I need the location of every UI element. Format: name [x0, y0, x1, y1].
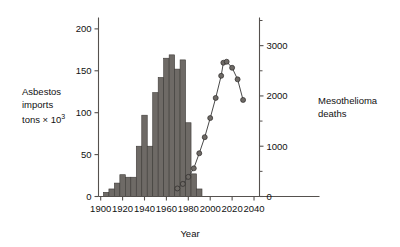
- line-series-marker: [219, 73, 224, 78]
- left-axis-tick-label: 150: [76, 65, 92, 76]
- left-axis-tick-label: 200: [76, 23, 92, 34]
- bar: [191, 174, 196, 197]
- chart-figure: 0501001502000100020003000190019201940196…: [0, 0, 400, 247]
- x-axis-tick-label: 2040: [243, 203, 264, 214]
- x-axis-tick-label: 2020: [222, 203, 243, 214]
- left-axis-tick-label: 0: [86, 191, 91, 202]
- line-series-marker: [175, 186, 180, 191]
- bar: [164, 58, 169, 196]
- line-series-marker: [186, 174, 191, 179]
- x-axis-label: Year: [150, 228, 230, 239]
- bar: [109, 189, 114, 197]
- x-axis-tick-label: 1900: [90, 203, 111, 214]
- bar: [142, 115, 147, 196]
- x-axis-tick-label: 1980: [178, 203, 199, 214]
- left-axis-label-line3: tons × 103: [22, 111, 100, 127]
- left-axis-tick-label: 50: [81, 149, 92, 160]
- line-series-marker: [224, 59, 229, 64]
- left-axis-label-line1: Asbestos: [22, 86, 100, 99]
- bar: [158, 77, 163, 196]
- bar: [103, 192, 108, 196]
- line-series-marker: [180, 181, 185, 186]
- right-axis-label-line1: Mesothelioma: [318, 95, 400, 108]
- line-series-marker: [202, 135, 207, 140]
- x-axis-tick-label: 1960: [156, 203, 177, 214]
- bar: [136, 146, 141, 196]
- bar: [169, 55, 174, 197]
- line-series-marker: [230, 65, 235, 70]
- line-series-marker: [197, 151, 202, 156]
- bar: [153, 93, 158, 197]
- right-axis-tick-label: 0: [267, 191, 272, 202]
- right-axis-tick-label: 2000: [267, 90, 288, 101]
- line-series-marker: [241, 97, 246, 102]
- line-series-marker: [208, 116, 213, 121]
- bar: [147, 146, 152, 196]
- line-series-marker: [191, 166, 196, 171]
- x-axis-tick-label: 2000: [200, 203, 221, 214]
- bar: [114, 183, 119, 196]
- line-series-marker: [235, 77, 240, 82]
- bar: [197, 189, 202, 197]
- bar: [186, 123, 191, 197]
- bar: [125, 177, 130, 196]
- left-axis-label-exponent: 3: [61, 113, 65, 120]
- line-series-marker: [213, 95, 218, 100]
- bar: [180, 60, 185, 197]
- x-axis-tick-label: 1940: [134, 203, 155, 214]
- left-axis-label-line2: imports: [22, 99, 100, 112]
- right-axis-label-line2: deaths: [318, 108, 400, 121]
- right-axis-label: Mesothelioma deaths: [318, 95, 400, 120]
- right-axis-tick-label: 3000: [267, 40, 288, 51]
- left-axis-label: Asbestos imports tons × 103: [22, 86, 100, 127]
- left-axis-label-units: tons × 10: [22, 114, 61, 125]
- x-axis-tick-label: 1920: [112, 203, 133, 214]
- bar: [120, 175, 125, 197]
- bar: [131, 177, 136, 196]
- bar: [175, 69, 180, 196]
- right-axis-tick-label: 1000: [267, 141, 288, 152]
